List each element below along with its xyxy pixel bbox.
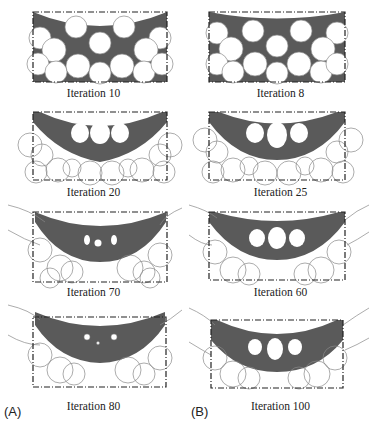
panel-b4: Iteration 100 (B) <box>187 300 374 422</box>
caption-a2: Iteration 20 <box>0 186 187 198</box>
caption-b2: Iteration 25 <box>187 186 374 198</box>
topology-iteration-70 <box>0 200 187 300</box>
column-label-b: (B) <box>191 404 208 419</box>
caption-a1: Iteration 10 <box>0 87 187 99</box>
caption-a4: Iteration 80 <box>0 400 187 412</box>
column-label-a: (A) <box>4 404 21 419</box>
panel-a3: Iteration 70 <box>0 200 187 300</box>
caption-a3: Iteration 70 <box>0 286 187 298</box>
caption-b4: Iteration 100 <box>187 400 374 412</box>
topology-iteration-25 <box>187 100 374 200</box>
topology-iteration-60 <box>187 200 374 300</box>
topology-iteration-20 <box>0 100 187 200</box>
panel-a2: Iteration 20 <box>0 100 187 200</box>
panel-a1: Iteration 10 <box>0 0 187 105</box>
panel-a4: Iteration 80 (A) <box>0 300 187 422</box>
caption-b1: Iteration 8 <box>187 87 374 99</box>
panel-b3: Iteration 60 <box>187 200 374 300</box>
panel-b2: Iteration 25 <box>187 100 374 200</box>
caption-b3: Iteration 60 <box>187 286 374 298</box>
panel-b1: Iteration 8 <box>187 0 374 105</box>
